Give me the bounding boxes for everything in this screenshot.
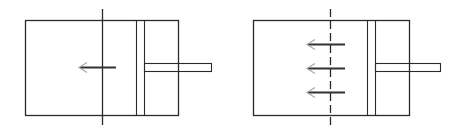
diagram-canvas xyxy=(0,0,464,135)
left-cylinder-panel xyxy=(26,9,212,125)
right-cylinder-panel xyxy=(254,9,441,127)
piston-cylinder-diagram xyxy=(0,0,464,135)
piston-rod xyxy=(376,64,441,72)
